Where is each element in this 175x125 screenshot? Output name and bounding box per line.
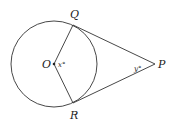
- center-point: [53, 63, 56, 66]
- radius-or: [54, 64, 73, 103]
- geometry-diagram: Q R O P x° y°: [0, 0, 175, 125]
- tangent-pr: [73, 64, 155, 103]
- angle-y-label: y°: [133, 65, 141, 73]
- label-p: P: [157, 58, 166, 71]
- label-q: Q: [70, 8, 79, 21]
- label-o: O: [42, 58, 51, 71]
- label-r: R: [69, 109, 78, 122]
- tangent-pq: [73, 25, 155, 64]
- radius-oq: [54, 25, 73, 64]
- angle-x-label: x°: [58, 61, 65, 69]
